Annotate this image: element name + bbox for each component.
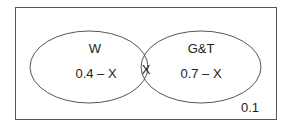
set-w-label: W	[89, 41, 101, 56]
intersection-value: X	[142, 62, 151, 77]
set-gt-label: G&T	[188, 41, 215, 56]
set-gt-only-value: 0.7 – X	[180, 66, 221, 81]
set-w-only-value: 0.4 – X	[75, 66, 116, 81]
venn-diagram: W 0.4 – X X G&T 0.7 – X 0.1	[0, 0, 287, 126]
universe-value: 0.1	[241, 100, 259, 115]
